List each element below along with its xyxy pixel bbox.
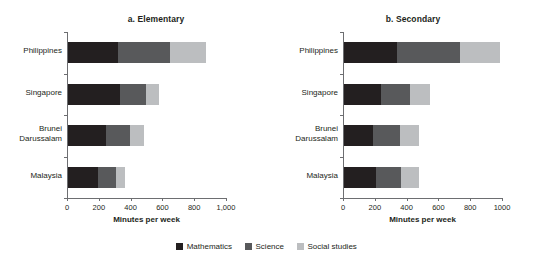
x-axis-tick: [407, 198, 408, 201]
x-axis-tick-label: 600: [432, 203, 445, 212]
x-axis-tick: [162, 198, 163, 201]
x-axis-tick-label: 800: [464, 203, 477, 212]
category-label: Philippines: [23, 46, 62, 56]
category-label: Philippines: [299, 46, 338, 56]
x-axis-tick: [438, 198, 439, 201]
x-axis-tick: [99, 198, 100, 201]
legend-label: Science: [256, 242, 284, 251]
category-label: Singapore: [26, 88, 62, 98]
x-axis-tick: [470, 198, 471, 201]
y-axis-tick: [340, 115, 343, 116]
legend-item-sci[interactable]: Science: [245, 242, 284, 251]
legend-item-math[interactable]: Mathematics: [176, 242, 232, 251]
bar-malaysia[interactable]: [344, 167, 419, 188]
category-label: Singapore: [302, 88, 338, 98]
x-axis-tick: [375, 198, 376, 201]
x-axis-tick-label: 0: [341, 203, 345, 212]
bar-segment-sci: [118, 42, 170, 63]
y-axis-tick: [64, 32, 67, 33]
x-axis-line: [343, 198, 502, 199]
bar-segment-sci: [376, 167, 401, 188]
legend-label: Mathematics: [187, 242, 232, 251]
x-axis-tick-label: 0: [65, 203, 69, 212]
y-axis-tick: [64, 198, 67, 199]
y-axis-tick: [64, 115, 67, 116]
y-axis-tick: [340, 74, 343, 75]
chart-legend: MathematicsScienceSocial studies: [0, 242, 533, 251]
x-axis-tick-label: 400: [124, 203, 137, 212]
bar-segment-sci: [397, 42, 459, 63]
plot-area-elementary: Minutes per week 02004006008001,000Phili…: [67, 32, 226, 198]
x-axis-tick: [343, 198, 344, 201]
bar-segment-soc: [146, 84, 159, 105]
y-axis-tick: [340, 32, 343, 33]
panel-title-secondary: b. Secondary: [265, 14, 533, 24]
bar-segment-math: [68, 84, 120, 105]
legend-label: Social studies: [307, 242, 356, 251]
x-axis-title-elementary: Minutes per week: [67, 215, 226, 224]
bar-singapore[interactable]: [68, 84, 159, 105]
bar-segment-math: [68, 125, 106, 146]
bar-philippines[interactable]: [68, 42, 206, 63]
legend-swatch-math-icon: [176, 243, 183, 250]
x-axis-tick: [226, 198, 227, 201]
x-axis-tick: [131, 198, 132, 201]
bar-segment-soc: [460, 42, 500, 63]
chart-panel-secondary: b. Secondary Minutes per week 0200400600…: [265, 0, 533, 236]
bar-segment-math: [68, 42, 118, 63]
x-axis-tick-label: 1000: [494, 203, 511, 212]
bar-segment-soc: [400, 125, 419, 146]
bar-segment-sci: [120, 84, 146, 105]
bar-segment-soc: [130, 125, 144, 146]
bar-segment-sci: [381, 84, 410, 105]
bar-segment-soc: [410, 84, 430, 105]
bar-singapore[interactable]: [344, 84, 430, 105]
x-axis-tick: [67, 198, 68, 201]
panel-title-elementary: a. Elementary: [0, 14, 290, 24]
category-label: BruneiDarussalam: [19, 124, 62, 143]
y-axis-tick: [340, 198, 343, 199]
bar-segment-soc: [116, 167, 126, 188]
bar-brunei-darussalam[interactable]: [68, 125, 144, 146]
bar-segment-soc: [401, 167, 418, 188]
bar-segment-math: [344, 42, 397, 63]
x-axis-title-secondary: Minutes per week: [343, 215, 502, 224]
bar-brunei-darussalam[interactable]: [344, 125, 419, 146]
bar-segment-math: [344, 167, 376, 188]
bar-segment-sci: [373, 125, 400, 146]
bar-segment-math: [68, 167, 98, 188]
bar-segment-soc: [170, 42, 205, 63]
category-label: Malaysia: [30, 171, 62, 181]
bar-segment-sci: [106, 125, 130, 146]
legend-swatch-sci-icon: [245, 243, 252, 250]
y-axis-tick: [64, 74, 67, 75]
x-axis-tick: [194, 198, 195, 201]
chart-panel-elementary: a. Elementary Minutes per week 020040060…: [0, 0, 268, 236]
bar-malaysia[interactable]: [68, 167, 125, 188]
plot-area-secondary: Minutes per week 02004006008001000Philip…: [343, 32, 502, 198]
x-axis-tick-label: 400: [400, 203, 413, 212]
x-axis-tick-label: 200: [369, 203, 382, 212]
x-axis-tick: [502, 198, 503, 201]
category-label: BruneiDarussalam: [295, 124, 338, 143]
bar-segment-math: [344, 125, 373, 146]
x-axis-tick-label: 600: [156, 203, 169, 212]
bar-philippines[interactable]: [344, 42, 500, 63]
x-axis-line: [67, 198, 226, 199]
figure-container: a. Elementary Minutes per week 020040060…: [0, 0, 533, 262]
legend-item-soc[interactable]: Social studies: [297, 242, 357, 251]
bar-segment-sci: [98, 167, 115, 188]
y-axis-tick: [64, 157, 67, 158]
x-axis-tick-label: 200: [93, 203, 106, 212]
y-axis-tick: [340, 157, 343, 158]
x-axis-tick-label: 1,000: [217, 203, 236, 212]
category-label: Malaysia: [306, 171, 338, 181]
bar-segment-math: [344, 84, 381, 105]
x-axis-tick-label: 800: [188, 203, 201, 212]
legend-swatch-soc-icon: [297, 243, 304, 250]
